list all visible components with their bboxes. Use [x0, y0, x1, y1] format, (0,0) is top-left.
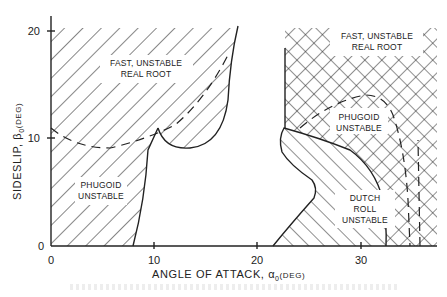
- y-axis-title: SIDESLIP, β0(DEG): [11, 103, 25, 200]
- label-fast-left-1: FAST, UNSTABLE: [110, 58, 182, 68]
- label-phugoid-left-2: UNSTABLE: [78, 191, 124, 201]
- y-axis-title-main: SIDESLIP, β: [11, 133, 23, 200]
- x-tick-10: 10: [148, 254, 160, 266]
- x-tick-20: 20: [251, 254, 263, 266]
- x-axis-title: ANGLE OF ATTACK, α0(DEG): [152, 268, 305, 282]
- x-axis-title-main: ANGLE OF ATTACK, α: [152, 268, 275, 280]
- stability-boundary-chart: FAST, UNSTABLE REAL ROOT PHUGOID UNSTABL…: [0, 0, 447, 297]
- label-phugoid-right-2: UNSTABLE: [336, 123, 382, 133]
- x-tick-0: 0: [48, 254, 54, 266]
- label-dutch-1: DUTCH: [350, 193, 381, 203]
- label-phugoid-left-1: PHUGOID: [80, 180, 121, 190]
- x-axis-title-unit: (DEG): [280, 271, 306, 280]
- label-fast-right-1: FAST, UNSTABLE: [341, 31, 413, 41]
- label-fast-left-2: REAL ROOT: [121, 69, 172, 79]
- label-fast-right-2: REAL ROOT: [352, 42, 403, 52]
- y-axis-title-unit: (DEG): [14, 103, 23, 129]
- label-dutch-3: UNSTABLE: [342, 215, 388, 225]
- x-tick-30: 30: [355, 254, 367, 266]
- label-dutch-2: ROLL: [353, 204, 376, 214]
- label-phugoid-right-1: PHUGOID: [338, 112, 379, 122]
- y-tick-20: 20: [28, 25, 40, 37]
- faded-caption: [70, 284, 400, 290]
- y-tick-10: 10: [28, 132, 40, 144]
- y-tick-0: 0: [38, 240, 44, 252]
